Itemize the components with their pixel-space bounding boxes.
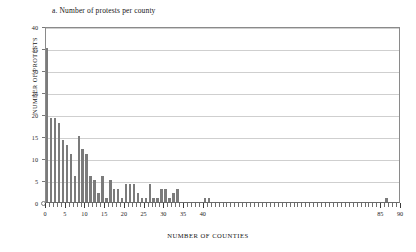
x-axis-minor-tick [262, 203, 263, 207]
bar [109, 180, 111, 202]
x-axis-minor-tick [88, 203, 89, 207]
x-axis-major-tick [84, 203, 85, 208]
x-axis-minor-tick [112, 203, 113, 207]
x-axis-minor-tick [317, 203, 318, 207]
x-axis-minor-tick [333, 203, 334, 207]
x-axis-minor-tick [207, 203, 208, 207]
x-axis-minor-tick [325, 203, 326, 207]
x-axis-minor-tick [57, 203, 58, 207]
bar [145, 198, 147, 202]
x-axis-minor-tick [148, 203, 149, 207]
x-axis-minor-tick [357, 203, 358, 207]
x-axis-minor-tick [171, 203, 172, 207]
y-axis-tick-label: 40 [16, 24, 38, 31]
bar [133, 184, 135, 202]
x-axis-minor-tick [368, 203, 369, 207]
y-axis-tick-label: 35 [16, 46, 38, 53]
x-axis-major-tick [203, 203, 204, 208]
x-axis-minor-tick [349, 203, 350, 207]
bar [164, 189, 166, 202]
x-axis-minor-tick [132, 203, 133, 207]
x-axis-minor-tick [116, 203, 117, 207]
x-axis-minor-tick [321, 203, 322, 207]
x-axis-minor-tick [250, 203, 251, 207]
y-axis-tick [42, 137, 45, 138]
x-axis-minor-tick [365, 203, 366, 207]
x-axis-minor-tick [238, 203, 239, 207]
x-axis-minor-tick [274, 203, 275, 207]
x-axis-minor-tick [96, 203, 97, 207]
x-axis-minor-tick [361, 203, 362, 207]
y-axis-tick [42, 181, 45, 182]
x-axis-minor-tick [396, 203, 397, 207]
bar [93, 180, 95, 202]
x-axis-minor-tick [195, 203, 196, 207]
bar [204, 198, 206, 202]
x-axis-minor-tick [266, 203, 267, 207]
bar [117, 189, 119, 202]
x-axis-minor-tick [294, 203, 295, 207]
x-axis-minor-tick [77, 203, 78, 207]
x-axis-minor-tick [49, 203, 50, 207]
y-axis-tick [42, 93, 45, 94]
bar [176, 189, 178, 202]
x-axis-minor-tick [69, 203, 70, 207]
x-axis-major-tick [65, 203, 66, 208]
x-axis-minor-tick [309, 203, 310, 207]
bar [113, 189, 115, 202]
x-axis-minor-tick [100, 203, 101, 207]
x-axis-major-tick [380, 203, 381, 208]
y-axis-tick [42, 71, 45, 72]
bar [50, 118, 52, 202]
x-axis-minor-tick [305, 203, 306, 207]
plot-area [45, 27, 400, 203]
x-axis-minor-tick [301, 203, 302, 207]
x-axis-minor-tick [246, 203, 247, 207]
y-axis-tick-label: 25 [16, 90, 38, 97]
x-axis-minor-tick [73, 203, 74, 207]
bar [81, 149, 83, 202]
y-axis-tick [42, 115, 45, 116]
x-axis-minor-tick [120, 203, 121, 207]
x-axis-minor-tick [278, 203, 279, 207]
bar [66, 145, 68, 202]
x-axis-minor-tick [215, 203, 216, 207]
y-axis-tick-label: 0 [16, 200, 38, 207]
x-axis-minor-tick [53, 203, 54, 207]
x-axis-major-tick [45, 203, 46, 208]
bar [58, 123, 60, 202]
x-axis-title: NUMBER OF COUNTIES [0, 232, 416, 239]
y-axis-tick-label: 30 [16, 68, 38, 75]
bar [141, 198, 143, 202]
x-axis-minor-tick [81, 203, 82, 207]
bar [70, 154, 72, 202]
x-axis-minor-tick [234, 203, 235, 207]
chart-title: a. Number of protests per county [52, 6, 156, 15]
bar [74, 176, 76, 202]
x-axis-minor-tick [254, 203, 255, 207]
x-axis-minor-tick [388, 203, 389, 207]
x-axis-minor-tick [167, 203, 168, 207]
x-axis-major-tick [124, 203, 125, 208]
x-axis-minor-tick [223, 203, 224, 207]
x-axis-minor-tick [286, 203, 287, 207]
x-axis-tick-label: 20 [114, 210, 134, 217]
x-axis-minor-tick [353, 203, 354, 207]
bar [125, 184, 127, 202]
x-axis-tick-label: 5 [55, 210, 75, 217]
x-axis-minor-tick [297, 203, 298, 207]
bar [105, 198, 107, 202]
y-axis-tick [42, 49, 45, 50]
x-axis-minor-tick [191, 203, 192, 207]
x-axis-minor-tick [136, 203, 137, 207]
x-axis-minor-tick [242, 203, 243, 207]
x-axis-minor-tick [211, 203, 212, 207]
x-axis-tick-label: 35 [173, 210, 193, 217]
bar [89, 176, 91, 202]
x-axis-major-tick [183, 203, 184, 208]
bar [129, 184, 131, 202]
x-axis-tick-label: 85 [370, 210, 390, 217]
x-axis-major-tick [104, 203, 105, 208]
x-axis-minor-tick [159, 203, 160, 207]
bar [54, 118, 56, 202]
